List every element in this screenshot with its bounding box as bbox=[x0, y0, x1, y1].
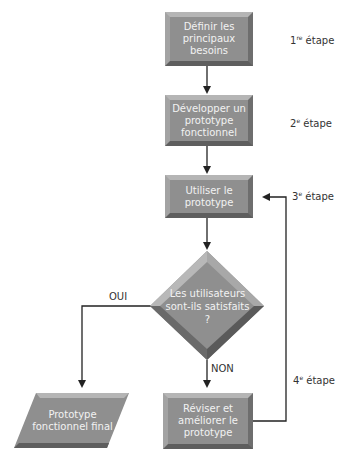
step-4-label: 4e étape bbox=[293, 374, 335, 386]
node-label: Développer un prototype fonctionnel bbox=[170, 103, 248, 139]
node-label: Réviser et améliorer le prototype bbox=[168, 403, 248, 439]
edge-label-no: NON bbox=[211, 363, 234, 374]
decision-label: Les utilisateurs sont-ils satisfaits ? bbox=[165, 287, 250, 326]
node-label: Utiliser le prototype bbox=[170, 185, 248, 209]
node-use-prototype: Utiliser le prototype bbox=[165, 175, 253, 218]
step-2-label: 2e étape bbox=[290, 117, 332, 129]
node-label: Définir les principaux besoins bbox=[170, 21, 248, 57]
edge-label-yes: OUI bbox=[109, 291, 127, 302]
step-3-label: 3e étape bbox=[292, 190, 334, 202]
node-define-needs: Définir les principaux besoins bbox=[165, 12, 253, 66]
output-label: Prototype fonctionnel final bbox=[30, 409, 115, 433]
step-1-label: 1re étape bbox=[290, 34, 334, 46]
node-develop-prototype: Développer un prototype fonctionnel bbox=[165, 95, 253, 146]
node-revise-prototype: Réviser et améliorer le prototype bbox=[163, 393, 253, 449]
